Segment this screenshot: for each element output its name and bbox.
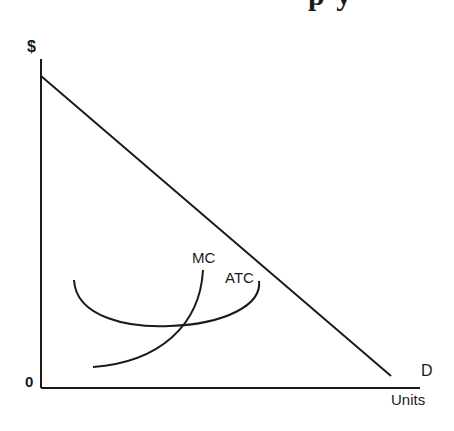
- diagram-canvas: [0, 0, 454, 431]
- atc-curve: [74, 280, 259, 326]
- demand-label: D: [421, 363, 433, 379]
- x-axis-label: Units: [391, 392, 425, 407]
- origin-label: 0: [25, 374, 33, 389]
- demand-curve: [41, 76, 391, 376]
- mc-label: MC: [192, 250, 215, 265]
- atc-label: ATC: [225, 270, 254, 285]
- y-axis-label: $: [27, 39, 36, 55]
